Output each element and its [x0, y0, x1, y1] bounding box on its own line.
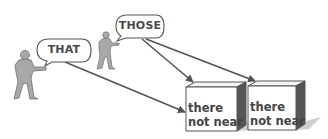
those-bubble-label: THOSE — [116, 19, 164, 32]
box-2-line-2: not near — [250, 114, 305, 128]
arrow-those-to-box2 — [146, 39, 255, 81]
arrow-those-to-box1 — [142, 39, 193, 82]
box-1-line-2: not near — [188, 115, 243, 129]
far-speaker-figure-icon — [97, 32, 119, 69]
arrow-that-to-box1 — [65, 62, 185, 112]
demonstrative-diagram: THAT THOSE there not near there not near — [0, 0, 328, 139]
box-1-label: there not near — [188, 101, 243, 129]
box-1-line-1: there — [188, 101, 243, 115]
box-2-label: there not near — [250, 100, 305, 128]
that-bubble-label: THAT — [37, 43, 91, 56]
box-2-line-1: there — [250, 100, 305, 114]
